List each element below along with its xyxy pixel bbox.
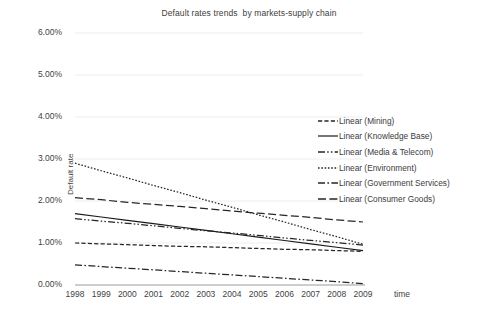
legend-item-label: Linear (Mining) bbox=[339, 116, 394, 126]
x-tick-label: 1999 bbox=[87, 289, 115, 299]
x-tick-label: 2005 bbox=[244, 289, 272, 299]
x-tick-label: 2009 bbox=[349, 289, 377, 299]
legend-line-swatch-icon bbox=[318, 131, 338, 141]
legend-item-label: Linear (Knowledge Base) bbox=[339, 131, 432, 141]
x-tick-label: 2004 bbox=[218, 289, 246, 299]
x-tick-label: 1998 bbox=[61, 289, 89, 299]
x-tick-label: 2006 bbox=[270, 289, 298, 299]
legend-item-label: Linear (Government Services) bbox=[339, 178, 450, 188]
y-tick-label: 2.00% bbox=[18, 195, 62, 205]
x-tick-label: 2000 bbox=[113, 289, 141, 299]
chart-container: Default rates trends by markets-supply c… bbox=[0, 0, 498, 327]
legend-item[interactable]: Linear (Environment) bbox=[318, 160, 496, 176]
legend-line-swatch-icon bbox=[318, 147, 338, 157]
legend-item-label: Linear (Environment) bbox=[339, 163, 416, 173]
y-tick-label: 6.00% bbox=[18, 27, 62, 37]
x-tick-label: 2003 bbox=[192, 289, 220, 299]
x-tick-label: 2007 bbox=[297, 289, 325, 299]
legend-item[interactable]: Linear (Mining) bbox=[318, 113, 496, 129]
legend-item[interactable]: Linear (Consumer Goods) bbox=[318, 191, 496, 207]
series-line-0 bbox=[75, 243, 363, 251]
y-tick-label: 3.00% bbox=[18, 153, 62, 163]
series-line-4 bbox=[75, 265, 363, 284]
y-axis-title: Default rate bbox=[66, 154, 75, 195]
chart-legend: Linear (Mining)Linear (Knowledge Base)Li… bbox=[318, 113, 496, 207]
y-tick-label: 0.00% bbox=[18, 279, 62, 289]
x-axis-title: time bbox=[394, 289, 410, 299]
x-tick-label: 2002 bbox=[166, 289, 194, 299]
legend-line-swatch-icon bbox=[318, 194, 338, 204]
legend-item[interactable]: Linear (Government Services) bbox=[318, 175, 496, 191]
legend-item-label: Linear (Consumer Goods) bbox=[339, 194, 435, 204]
legend-line-swatch-icon bbox=[318, 116, 338, 126]
legend-item-label: Linear (Media & Telecom) bbox=[339, 147, 433, 157]
y-tick-label: 4.00% bbox=[18, 111, 62, 121]
x-tick-label: 2008 bbox=[323, 289, 351, 299]
y-tick-label: 5.00% bbox=[18, 69, 62, 79]
legend-item[interactable]: Linear (Media & Telecom) bbox=[318, 144, 496, 160]
legend-line-swatch-icon bbox=[318, 178, 338, 188]
legend-item[interactable]: Linear (Knowledge Base) bbox=[318, 129, 496, 145]
y-tick-label: 1.00% bbox=[18, 237, 62, 247]
x-tick-label: 2001 bbox=[140, 289, 168, 299]
legend-line-swatch-icon bbox=[318, 163, 338, 173]
